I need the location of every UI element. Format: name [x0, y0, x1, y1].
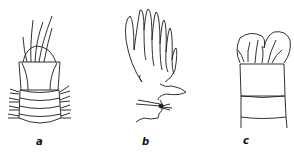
- panel-a: a: [0, 0, 100, 158]
- panel-c: c: [200, 0, 294, 158]
- panel-label-c: c: [243, 135, 249, 146]
- panel-b: b: [100, 0, 200, 158]
- panel-label-b: b: [142, 136, 149, 147]
- panel-label-a: a: [36, 136, 43, 147]
- gill-b-drawing: [100, 0, 200, 158]
- worm-a-drawing: [0, 0, 100, 158]
